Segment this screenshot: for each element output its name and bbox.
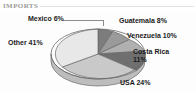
mexico-leader-line: [63, 20, 104, 21]
pie-label-mexico: Mexico 6%: [28, 15, 64, 23]
pie-label-usa: USA 24%: [120, 79, 150, 87]
figure-header: IMPORTS: [0, 0, 196, 13]
pie-label-costa-rica-value: 11%: [133, 56, 147, 63]
figure-title: IMPORTS: [3, 2, 38, 10]
pie-label-other: Other 41%: [8, 39, 43, 47]
pie-label-costa-rica-name: Costa Rica: [133, 48, 169, 55]
header-divider: [40, 6, 194, 7]
pie-label-venezuela: Venezuela 10%: [127, 32, 177, 40]
imports-pie-figure: IMPORTS: [0, 0, 196, 91]
pie-chart-plot-area: Mexico 6% Guatemala 8% Venezuela 10% Cos…: [0, 13, 196, 91]
mexico-leader-tick: [103, 20, 104, 26]
pie-label-guatemala: Guatemala 8%: [119, 17, 167, 25]
pie-label-costa-rica: Costa Rica 11%: [133, 48, 177, 64]
